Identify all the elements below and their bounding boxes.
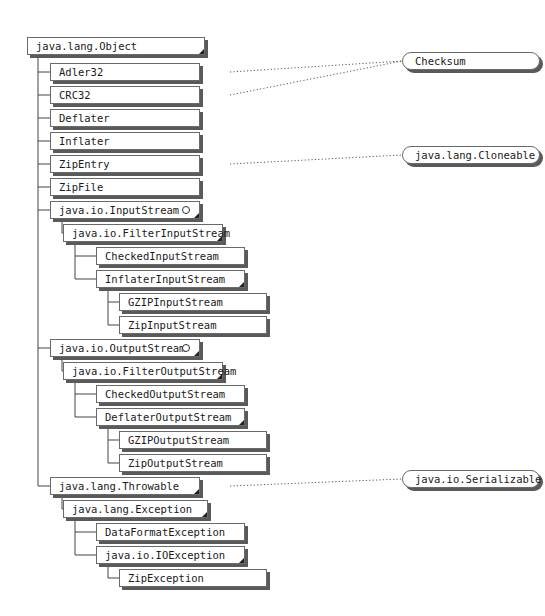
class-box-ioexception[interactable]: java.io.IOException: [96, 546, 245, 564]
class-box-outputstream[interactable]: java.io.OutputStream: [50, 339, 200, 357]
class-label: GZIPOutputStream: [128, 434, 229, 446]
class-label: ZipFile: [59, 181, 103, 193]
class-box-deflater[interactable]: Deflater: [50, 109, 200, 127]
class-label: ZipOutputStream: [128, 457, 223, 469]
class-label: java.io.FilterInputStream: [72, 227, 230, 239]
class-label: DataFormatException: [105, 526, 225, 538]
class-label: GZIPInputStream: [128, 296, 223, 308]
implements-link-adler32-checksum: [230, 61, 402, 72]
implements-link-crc32-checksum: [230, 61, 402, 95]
interface-label: Checksum: [415, 55, 466, 67]
class-label: CRC32: [59, 89, 91, 101]
implements-link-zipentry-cloneable: [230, 155, 402, 164]
class-label: Inflater: [59, 135, 110, 147]
class-box-deflateroutputstream[interactable]: DeflaterOutputStream: [96, 408, 245, 426]
class-box-gzipinputstream[interactable]: GZIPInputStream: [119, 293, 267, 311]
class-box-filterinputstream[interactable]: java.io.FilterInputStream: [63, 224, 223, 242]
class-label: CheckedInputStream: [105, 250, 219, 262]
class-box-checkedinputstream[interactable]: CheckedInputStream: [96, 247, 245, 265]
class-box-inflaterinputstream[interactable]: InflaterInputStream: [96, 270, 245, 288]
class-label: DeflaterOutputStream: [105, 411, 231, 423]
class-label: java.io.IOException: [105, 549, 225, 561]
class-box-adler32[interactable]: Adler32: [50, 63, 200, 81]
class-label: java.lang.Throwable: [59, 480, 179, 492]
interface-label: java.lang.Cloneable: [415, 149, 535, 161]
class-label: ZipEntry: [59, 158, 110, 170]
class-box-inflater[interactable]: Inflater: [50, 132, 200, 150]
class-box-zipinputstream[interactable]: ZipInputStream: [119, 316, 267, 334]
class-label: java.lang.Object: [36, 40, 137, 52]
circle-marker-icon: [182, 344, 190, 352]
class-box-zipoutputstream[interactable]: ZipOutputStream: [119, 454, 267, 472]
class-label: Deflater: [59, 112, 110, 124]
implements-link-throwable-serializable: [230, 479, 402, 486]
class-box-checkedoutputstream[interactable]: CheckedOutputStream: [96, 385, 245, 403]
class-label: java.io.FilterOutputStream: [72, 365, 236, 377]
class-box-java-lang-object[interactable]: java.lang.Object: [27, 37, 205, 55]
interface-box-cloneable[interactable]: java.lang.Cloneable: [402, 146, 540, 164]
class-box-filteroutputstream[interactable]: java.io.FilterOutputStream: [63, 362, 223, 380]
class-label: Adler32: [59, 66, 103, 78]
class-box-crc32[interactable]: CRC32: [50, 86, 200, 104]
class-label: ZipInputStream: [128, 319, 217, 331]
class-box-zipentry[interactable]: ZipEntry: [50, 155, 200, 173]
class-label: java.io.OutputStream: [59, 342, 185, 354]
circle-marker-icon: [182, 206, 190, 214]
class-label: CheckedOutputStream: [105, 388, 225, 400]
interface-box-serializable[interactable]: java.io.Serializable: [402, 470, 540, 488]
class-box-throwable[interactable]: java.lang.Throwable: [50, 477, 200, 495]
interface-box-checksum[interactable]: Checksum: [402, 52, 540, 70]
class-box-exception[interactable]: java.lang.Exception: [63, 500, 208, 518]
class-label: InflaterInputStream: [105, 273, 225, 285]
class-label: ZipException: [128, 572, 204, 584]
class-box-dataformatexception[interactable]: DataFormatException: [96, 523, 245, 541]
interface-label: java.io.Serializable: [415, 473, 541, 485]
class-box-zipfile[interactable]: ZipFile: [50, 178, 200, 196]
class-box-zipexception[interactable]: ZipException: [119, 569, 267, 587]
class-box-inputstream[interactable]: java.io.InputStream: [50, 201, 200, 219]
class-label: java.io.InputStream: [59, 204, 179, 216]
class-label: java.lang.Exception: [72, 503, 192, 515]
class-box-gzipoutputstream[interactable]: GZIPOutputStream: [119, 431, 267, 449]
